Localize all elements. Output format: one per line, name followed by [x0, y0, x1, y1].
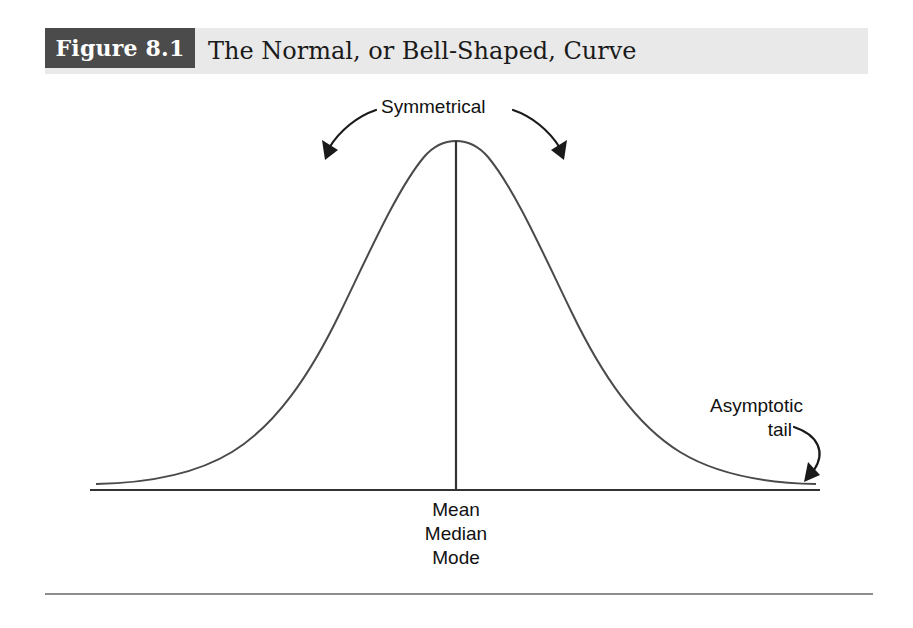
- label-symmetrical: Symmetrical: [381, 96, 486, 118]
- label-mode: Mode: [356, 547, 556, 569]
- label-median: Median: [356, 523, 556, 545]
- symmetrical-left-arrow: [322, 110, 376, 160]
- label-asymptotic-line1: Asymptotic: [710, 395, 803, 417]
- figure-bottom-rule: [45, 593, 873, 595]
- figure-root: Figure 8.1 The Normal, or Bell-Shaped, C…: [0, 0, 913, 628]
- asymptotic-tail-arrow: [794, 427, 820, 482]
- symmetrical-right-arrow: [513, 110, 567, 160]
- label-asymptotic-line2: tail: [710, 419, 792, 441]
- label-mean: Mean: [356, 499, 556, 521]
